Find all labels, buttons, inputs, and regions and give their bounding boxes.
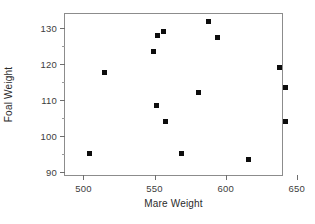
x-tick-mark <box>226 175 227 180</box>
x-tick-label: 600 <box>217 183 233 194</box>
x-tick-mark <box>155 175 156 180</box>
y-tick-label: 120 <box>41 59 57 70</box>
data-point <box>154 103 159 108</box>
y-tick-minor <box>62 118 65 119</box>
y-tick-mark <box>60 100 65 101</box>
y-axis-title: Foal Weight <box>2 13 16 176</box>
y-axis-title-text: Foal Weight <box>4 67 15 122</box>
y-tick-label: 90 <box>46 166 57 177</box>
x-axis-title: Mare Weight <box>64 198 283 209</box>
y-tick-minor <box>62 46 65 47</box>
data-point <box>163 119 168 124</box>
x-tick-label: 650 <box>289 183 305 194</box>
x-tick-mark <box>297 175 298 180</box>
y-tick-minor <box>62 82 65 83</box>
x-tick-mark <box>83 175 84 180</box>
data-point <box>283 119 288 124</box>
plot-area: 90100110120130 500550600650 <box>64 13 283 176</box>
data-point <box>102 70 107 75</box>
data-point <box>215 35 220 40</box>
data-point <box>179 151 184 156</box>
y-tick-mark <box>60 172 65 173</box>
y-tick-mark <box>60 136 65 137</box>
data-point <box>206 19 211 24</box>
data-point <box>87 151 92 156</box>
x-tick-label: 550 <box>146 183 162 194</box>
data-point <box>161 29 166 34</box>
y-tick-minor <box>62 154 65 155</box>
x-tick-label: 500 <box>75 183 91 194</box>
data-point <box>155 33 160 38</box>
data-point <box>151 49 156 54</box>
y-tick-label: 110 <box>41 94 57 105</box>
data-point <box>246 157 251 162</box>
y-tick-label: 100 <box>41 130 57 141</box>
y-tick-label: 130 <box>41 23 57 34</box>
data-point <box>196 90 201 95</box>
data-point <box>277 65 282 70</box>
y-tick-mark <box>60 28 65 29</box>
data-point <box>283 85 288 90</box>
scatter-plot-figure: Foal Weight 90100110120130 500550600650 … <box>0 0 315 224</box>
y-tick-mark <box>60 64 65 65</box>
